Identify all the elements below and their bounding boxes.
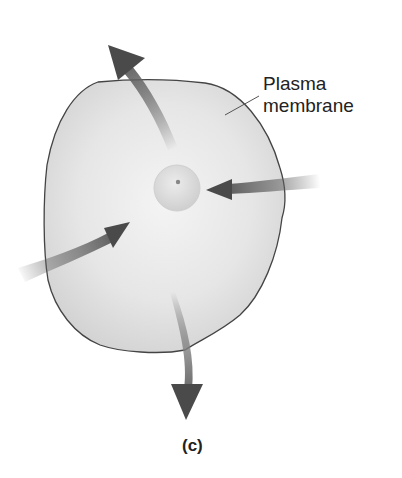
plasma-membrane-label: Plasma membrane	[263, 73, 354, 117]
panel-caption: (c)	[182, 436, 203, 456]
plasma-membrane-label-line2: membrane	[263, 95, 354, 117]
cell-diagram	[0, 0, 402, 478]
nucleolus	[176, 180, 180, 184]
nucleus	[154, 165, 200, 211]
plasma-membrane-label-line1: Plasma	[263, 73, 354, 95]
